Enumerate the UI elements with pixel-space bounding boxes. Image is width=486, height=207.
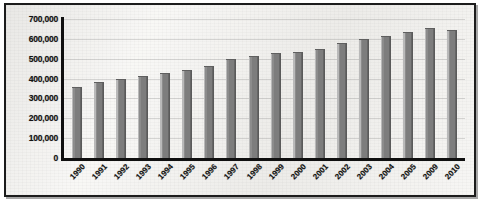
x-axis-tick-slot: 1994: [154, 161, 176, 201]
x-axis-tick-label: 2005: [399, 162, 418, 181]
x-axis-tick-label: 2004: [377, 162, 396, 181]
x-axis-tick-label: 1993: [134, 162, 153, 181]
bar[interactable]: [226, 59, 236, 158]
bar[interactable]: [447, 30, 457, 158]
y-axis-tick-label: 500,000: [29, 54, 58, 64]
chart-plot-wrapper: 700,000600,000500,000400,000300,000200,0…: [6, 5, 474, 195]
x-axis-tick-label: 1996: [201, 162, 220, 181]
x-axis-tick-label: 1995: [179, 162, 198, 181]
x-axis-tick-slot: 2003: [353, 161, 375, 201]
x-axis-labels: 1990199119921993199419951996199719981999…: [64, 161, 465, 201]
x-axis-tick-label: 2010: [443, 162, 462, 181]
bar-slot: [198, 19, 220, 158]
x-axis-tick-slot: 2010: [441, 161, 463, 201]
bar-slot: [265, 19, 287, 158]
x-axis-tick-slot: 2005: [397, 161, 419, 201]
bar-slot: [132, 19, 154, 158]
bar-slot: [419, 19, 441, 158]
x-axis-tick-slot: 2001: [309, 161, 331, 201]
bar-slot: [353, 19, 375, 158]
x-axis-tick-label: 2003: [355, 162, 374, 181]
bar-slot: [331, 19, 353, 158]
bar[interactable]: [94, 82, 104, 158]
bar[interactable]: [403, 32, 413, 158]
y-axis-tick-label: 100,000: [29, 133, 58, 143]
chart-frame: 700,000600,000500,000400,000300,000200,0…: [4, 3, 476, 197]
bar[interactable]: [138, 76, 148, 158]
bar[interactable]: [425, 28, 435, 158]
x-axis-tick-slot: 2009: [419, 161, 441, 201]
x-axis-tick-label: 1992: [112, 162, 131, 181]
x-axis-tick-label: 2009: [421, 162, 440, 181]
y-axis-tick-label: 0: [53, 153, 58, 163]
bar[interactable]: [249, 56, 259, 158]
bar[interactable]: [116, 79, 126, 158]
x-axis-tick-slot: 1991: [88, 161, 110, 201]
bar-slot: [441, 19, 463, 158]
bar-slot: [154, 19, 176, 158]
bar-slot: [66, 19, 88, 158]
y-axis-tick-label: 600,000: [29, 34, 58, 44]
bar-slot: [397, 19, 419, 158]
bar-slot: [176, 19, 198, 158]
bar-slot: [110, 19, 132, 158]
bar-slot: [88, 19, 110, 158]
x-axis-tick-label: 2001: [311, 162, 330, 181]
bar[interactable]: [271, 53, 281, 158]
x-axis-tick-slot: 1992: [110, 161, 132, 201]
y-axis-tick-label: 200,000: [29, 113, 58, 123]
bar[interactable]: [337, 43, 347, 158]
y-axis-labels: 700,000600,000500,000400,000300,000200,0…: [12, 5, 58, 195]
x-axis-tick-slot: 2000: [287, 161, 309, 201]
x-axis-tick-slot: 1996: [198, 161, 220, 201]
x-axis-tick-label: 2000: [289, 162, 308, 181]
bar[interactable]: [204, 66, 214, 158]
bar[interactable]: [359, 39, 369, 158]
x-axis-tick-slot: 1999: [265, 161, 287, 201]
y-axis-tick-label: 300,000: [29, 93, 58, 103]
bar-slot: [287, 19, 309, 158]
x-axis-tick-slot: 1997: [220, 161, 242, 201]
bar-slot: [220, 19, 242, 158]
x-axis-tick-label: 2002: [333, 162, 352, 181]
bar-slot: [243, 19, 265, 158]
bar-series: [64, 19, 465, 158]
y-axis-tick-label: 400,000: [29, 74, 58, 84]
x-axis-tick-label: 1999: [267, 162, 286, 181]
bar[interactable]: [381, 36, 391, 158]
plot-area: [64, 19, 465, 158]
bar[interactable]: [72, 87, 82, 158]
bar-slot: [375, 19, 397, 158]
x-axis-tick-label: 1997: [223, 162, 242, 181]
x-axis-tick-label: 1998: [245, 162, 264, 181]
x-axis-tick-label: 1994: [157, 162, 176, 181]
bar[interactable]: [160, 73, 170, 158]
y-axis-tick-label: 700,000: [29, 14, 58, 24]
bar[interactable]: [315, 49, 325, 158]
x-axis-tick-label: 1990: [68, 162, 87, 181]
x-axis-tick-slot: 2002: [331, 161, 353, 201]
x-axis-tick-slot: 1998: [243, 161, 265, 201]
bar[interactable]: [293, 52, 303, 158]
bar[interactable]: [182, 70, 192, 158]
bar-slot: [309, 19, 331, 158]
x-axis-tick-slot: 1995: [176, 161, 198, 201]
x-axis-tick-slot: 2004: [375, 161, 397, 201]
x-axis-tick-label: 1991: [90, 162, 109, 181]
x-axis-tick-slot: 1990: [66, 161, 88, 201]
x-axis-tick-slot: 1993: [132, 161, 154, 201]
